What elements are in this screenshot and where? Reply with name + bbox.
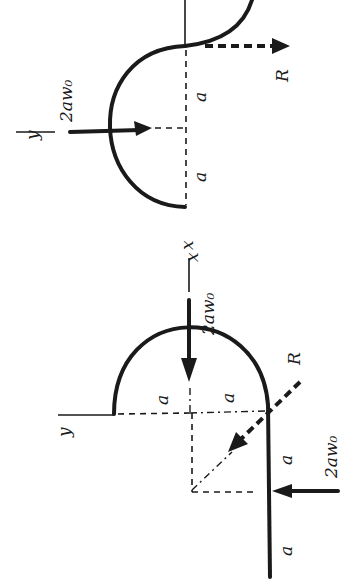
bottom-dim-a-right: a (218, 393, 238, 403)
bottom-top-load-label: 2aw₀ (198, 292, 218, 336)
bottom-top-load-arrowhead-icon (181, 358, 197, 382)
bottom-dim-a-left: a (152, 395, 172, 405)
top-y-label: y (22, 130, 42, 141)
bottom-x-label: x (182, 252, 202, 262)
top-x-label: x (177, 240, 197, 250)
top-curve-upper (185, 0, 252, 46)
top-reaction-arrowhead-icon (272, 38, 290, 54)
bottom-vertical-member (268, 405, 270, 577)
top-reaction-label: R (272, 69, 292, 83)
bottom-dim-a-vertical-upper: a (276, 455, 296, 465)
bottom-base-dashdot-right (190, 411, 266, 413)
top-dim-a1: a (190, 92, 210, 102)
top-load-label: 2aw₀ (56, 79, 76, 123)
bottom-side-load-label: 2aw₀ (321, 435, 341, 479)
top-diagram: y 2aw₀ a a R x (16, 0, 292, 250)
bottom-diagram: x 2aw₀ a a R y a 2aw₀ a (54, 252, 341, 577)
top-load-arrow (70, 130, 140, 132)
bottom-reaction-label: R (284, 352, 304, 366)
bottom-side-load-arrowhead-icon (272, 484, 292, 498)
top-load-arrowhead-icon (134, 121, 152, 136)
bottom-base-dashed-left (118, 413, 190, 414)
bottom-dim-a-vertical-lower: a (276, 546, 296, 556)
bottom-reaction-arrowhead-icon (228, 432, 248, 452)
bottom-diagonal (192, 452, 232, 490)
statics-diagram: y 2aw₀ a a R x x 2aw₀ (0, 0, 361, 586)
bottom-y-label: y (54, 427, 74, 438)
top-dim-a2: a (190, 172, 210, 182)
